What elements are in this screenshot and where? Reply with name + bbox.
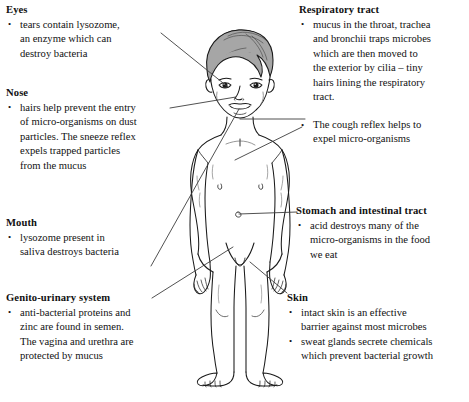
nostril-right (243, 99, 244, 101)
nostril-left (234, 98, 235, 101)
list-item: sweat glands secrete chemicals which pre… (287, 335, 469, 364)
bullet-line: tears contain lysozome, (20, 18, 192, 32)
callout-heading-nose: Nose (6, 86, 202, 100)
leg-left-inner (234, 266, 236, 372)
bullet-line: destroy bacteria (20, 47, 192, 61)
callout-heading-mouth: Mouth (6, 216, 192, 230)
bullet-line: expels trapped particles (20, 144, 202, 158)
bullet-line: which prevent bacterial growth (301, 349, 469, 363)
leader-line-cough (235, 127, 302, 160)
callout-list-stomach-and-intestinal-tract: acid destroys many of the micro-organism… (296, 219, 469, 262)
thigh-shade-left (218, 285, 219, 303)
bullet-line: hairs lining the respiratory (313, 76, 469, 90)
bullet-line: of micro-organisms on dust (20, 115, 202, 129)
diagram-page: Eyes tears contain lysozome, an enzyme w… (0, 0, 469, 402)
arm-left-inner (205, 163, 210, 262)
elbow-crease-left (199, 193, 200, 207)
callout-heading-skin: Skin (287, 291, 469, 305)
callout-respiratory-tract: Respiratory tract mucus in the throat, t… (299, 3, 469, 104)
eye-right (250, 83, 262, 88)
callout-heading-genito-urinary-system: Genito-urinary system (6, 291, 202, 305)
callout-heading-stomach-and-intestinal-tract: Stomach and intestinal tract (296, 204, 469, 218)
bullet-line: The cough reflex helps to (313, 118, 469, 132)
bullet-line: hairs help prevent the entry (20, 101, 202, 115)
callout-skin: Skin intact skin is an effective barrier… (287, 291, 469, 364)
knee-left (216, 310, 228, 317)
foot-left (197, 372, 234, 387)
torso-right (259, 135, 289, 254)
list-item: hairs help prevent the entry of micro-or… (6, 101, 202, 173)
bullet-line: micro-organisms in the food (310, 233, 469, 247)
list-item: acid destroys many of the micro-organism… (296, 219, 469, 262)
mouth-lower (230, 106, 250, 109)
bullet-line: saliva destroys bacteria (20, 245, 192, 259)
callout-list-cough-reflex: The cough reflex helps to expel micro-or… (299, 118, 469, 147)
callout-nose: Nose hairs help prevent the entry of mic… (6, 86, 202, 173)
navel (236, 212, 241, 217)
bullet-line: barrier against most microbes (301, 320, 469, 334)
bullet-line: and bronchii traps microbes (313, 32, 469, 46)
bullet-line: which are then moved to (313, 47, 469, 61)
leader-line-stomach (239, 212, 297, 214)
callout-cough-reflex: The cough reflex helps to expel micro-or… (299, 118, 469, 147)
bullet-line: lysozome present in (20, 231, 192, 245)
bullet-line: particles. The sneeze reflex (20, 130, 202, 144)
nose (235, 86, 242, 100)
bullet-line: mucus in the throat, trachea (313, 18, 469, 32)
leg-right-inner (244, 266, 246, 372)
callout-eyes: Eyes tears contain lysozome, an enzyme w… (6, 3, 192, 61)
list-item: lysozome present in saliva destroys bact… (6, 231, 192, 260)
bullet-line: anti-bacterial proteins and (20, 306, 202, 320)
eyebrow-left (219, 78, 231, 80)
cheek-left (217, 92, 219, 104)
leg-left-outer (211, 272, 217, 373)
hand-right (270, 262, 287, 294)
neck-right (253, 117, 259, 135)
callout-stomach-and-intestinal-tract: Stomach and intestinal tract acid destro… (296, 204, 469, 262)
callout-list-respiratory-tract: mucus in the throat, trachea and bronchi… (299, 18, 469, 104)
nipple-left (218, 184, 222, 189)
callout-list-nose: hairs help prevent the entry of micro-or… (6, 101, 202, 173)
callout-list-mouth: lysozome present in saliva destroys bact… (6, 231, 192, 260)
bullet-line: acid destroys many of the (310, 219, 469, 233)
callout-list-genito-urinary-system: anti-bacterial proteins and zinc are fou… (6, 306, 202, 364)
knee-right (252, 310, 264, 317)
forearm-mark-right (281, 176, 283, 190)
callout-list-skin: intact skin is an effective barrier agai… (287, 306, 469, 364)
bullet-line: protected by mucus (20, 349, 202, 363)
elbow-crease-right (281, 193, 282, 207)
bullet-line: tract. (313, 90, 469, 104)
clavicle-left (226, 141, 240, 144)
bullet-line: we eat (310, 248, 469, 262)
hair-shape (207, 30, 273, 82)
eyebrow-right (250, 78, 262, 80)
armpit-right (272, 150, 282, 163)
bullet-line: expel micro-organisms (313, 132, 469, 146)
nipple-right (259, 184, 263, 189)
list-item: anti-bacterial proteins and zinc are fou… (6, 306, 202, 364)
foot-right (246, 372, 283, 387)
clavicle-right (240, 141, 255, 145)
leg-right-outer (263, 272, 269, 373)
callout-list-eyes: tears contain lysozome, an enzyme which … (6, 18, 192, 61)
bullet-line: sweat glands secrete chemicals (301, 335, 469, 349)
list-item: The cough reflex helps to expel micro-or… (299, 118, 469, 147)
callout-heading-respiratory-tract: Respiratory tract (299, 3, 469, 17)
callout-mouth: Mouth lysozome present in saliva destroy… (6, 216, 192, 260)
eye-left (219, 83, 231, 88)
chest-shade-right (267, 165, 268, 179)
list-item: tears contain lysozome, an enzyme which … (6, 18, 192, 61)
bullet-line: an enzyme which can (20, 32, 192, 46)
mouth-upper (229, 103, 251, 105)
bullet-line: The vagina and urethra are (20, 335, 202, 349)
list-item: intact skin is an effective barrier agai… (287, 306, 469, 335)
bullet-line: intact skin is an effective (301, 306, 469, 320)
list-item: mucus in the throat, trachea and bronchi… (299, 18, 469, 104)
chest-shade-left (212, 165, 213, 179)
bullet-line: zinc are found in semen. (20, 320, 202, 334)
bullet-line: from the mucus (20, 159, 202, 173)
callout-genito-urinary-system: Genito-urinary system anti-bacterial pro… (6, 291, 202, 364)
callout-heading-eyes: Eyes (6, 3, 192, 17)
bullet-line: the exterior by cilia – tiny (313, 61, 469, 75)
thigh-shade-right (261, 285, 262, 303)
